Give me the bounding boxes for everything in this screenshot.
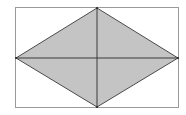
vertex-top xyxy=(96,7,98,9)
vertex-right xyxy=(177,57,179,59)
vertex-bottom xyxy=(96,106,98,108)
vertex-left xyxy=(15,57,17,59)
rhombus-in-rectangle-diagram xyxy=(0,0,186,115)
